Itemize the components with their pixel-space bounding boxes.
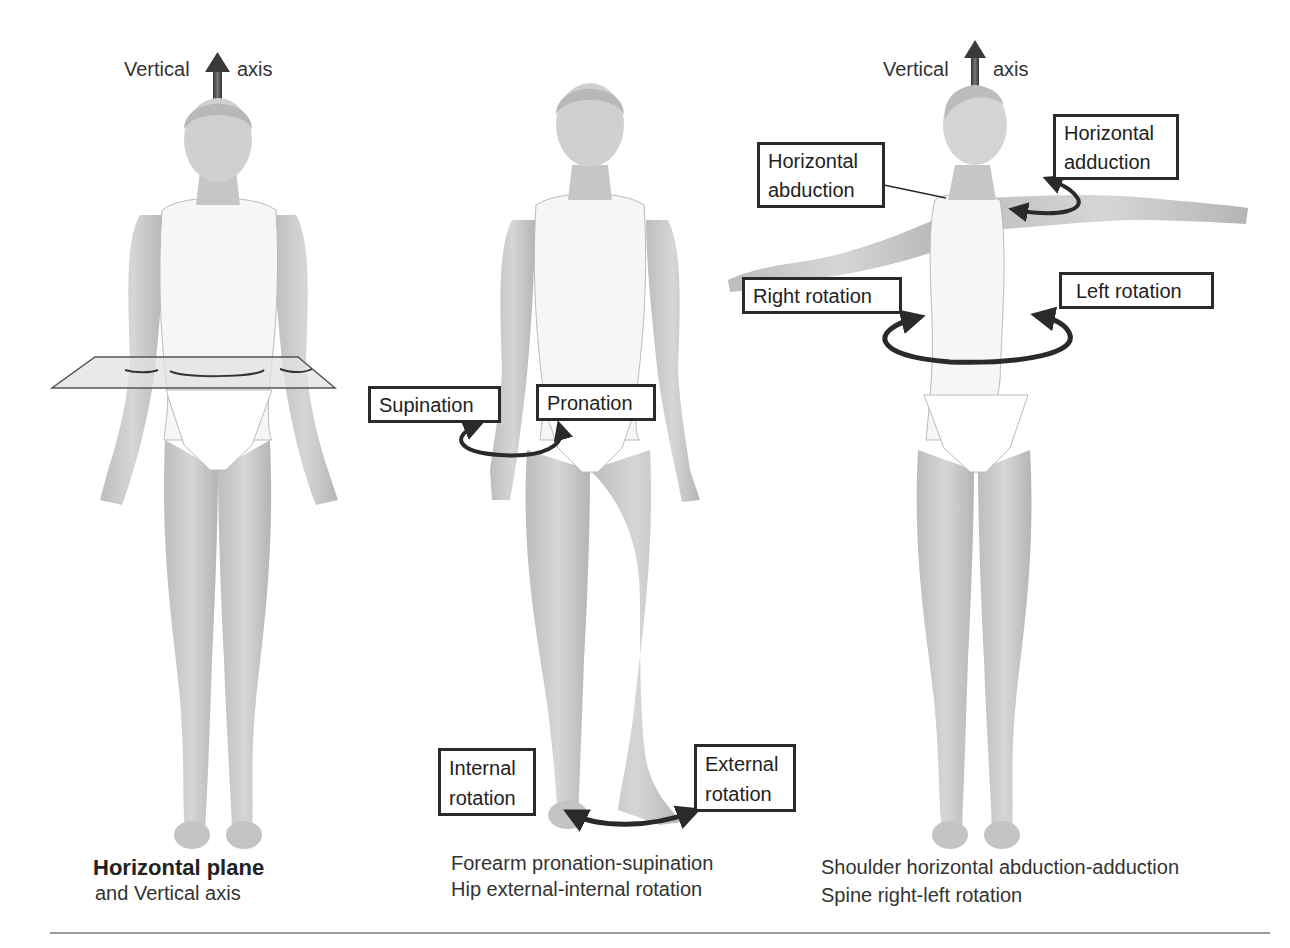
caption-horizontal-plane-sub: and Vertical axis [95,880,241,906]
internal-rotation-label-line2: rotation [449,783,525,813]
caption-hip-rotation: Hip external-internal rotation [451,876,702,902]
vertical-axis-arrowhead-icon [205,52,230,72]
caption-spine-rotation: Spine right-left rotation [821,882,1022,908]
left-rotation-label: Left rotation [1076,280,1182,302]
external-rotation-label-line1: External [705,749,785,779]
horizontal-adduction-label-line2: adduction [1064,148,1168,177]
vertical-axis-label: Vertical [124,58,190,81]
bottom-divider [50,932,1270,934]
pronation-label: Pronation [547,392,633,414]
external-rotation-label-box: External rotation [694,744,796,812]
right-rotation-label: Right rotation [753,285,872,307]
supination-label: Supination [379,394,474,416]
horizontal-abduction-label-line2: abduction [768,176,874,205]
caption-horizontal-plane-title: Horizontal plane [93,855,264,881]
external-rotation-label-line2: rotation [705,779,785,809]
right-rotation-label-box: Right rotation [742,277,902,314]
horizontal-abduction-label-box: Horizontal abduction [757,142,885,208]
supination-label-box: Supination [368,386,501,423]
axis-label: axis [237,58,273,81]
horizontal-adduction-label-line1: Horizontal [1064,119,1168,148]
vertical-axis-label-right: Vertical [883,58,949,81]
horizontal-abduction-label-line1: Horizontal [768,147,874,176]
pronation-label-box: Pronation [536,384,656,421]
caption-forearm-pronation-supination: Forearm pronation-supination [451,850,713,876]
abduction-leader-line [884,185,946,198]
left-rotation-label-box: Left rotation [1059,272,1214,309]
vertical-axis-arrowhead-icon [964,40,986,58]
caption-shoulder-horizontal: Shoulder horizontal abduction-adduction [821,854,1179,880]
axis-label-right: axis [993,58,1029,81]
horizontal-adduction-label-box: Horizontal adduction [1053,114,1179,180]
internal-rotation-label-line1: Internal [449,753,525,783]
internal-rotation-label-box: Internal rotation [438,748,536,816]
figure-1-body [52,52,338,849]
figure-2-body [461,83,700,829]
